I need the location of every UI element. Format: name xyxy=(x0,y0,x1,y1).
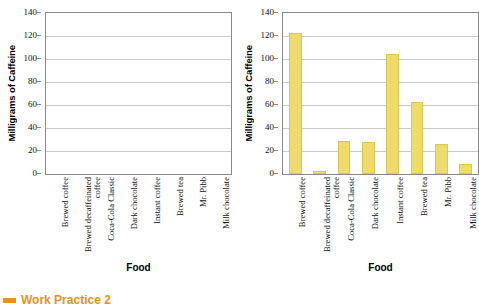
bar xyxy=(411,102,424,174)
y-tick-mark xyxy=(37,58,41,59)
y-tick-label: 140 xyxy=(261,7,275,17)
y-tick-label: 20 xyxy=(265,145,274,155)
y-tick-label: 100 xyxy=(261,53,275,63)
y-tick-mark xyxy=(274,81,278,82)
y-tick-label: 120 xyxy=(261,30,275,40)
x-tick-label: Mr. Pibb xyxy=(444,177,453,257)
chart-caffeine-bars: Milligrams of Caffeine 02040608010012014… xyxy=(237,0,477,290)
gridline xyxy=(46,59,231,60)
gridline xyxy=(46,36,231,37)
y-tick-label: 60 xyxy=(265,99,274,109)
plot-area xyxy=(45,12,232,175)
plot-area xyxy=(282,12,479,175)
x-axis-title: Food xyxy=(282,262,479,273)
y-tick-mark xyxy=(274,173,278,174)
y-tick-mark xyxy=(274,104,278,105)
x-tick-label: Brewed tea xyxy=(176,177,185,257)
y-tick-mark xyxy=(274,150,278,151)
y-tick-label: 80 xyxy=(28,76,37,86)
x-tick-label: Instant coffee xyxy=(396,177,405,257)
gridline xyxy=(46,151,231,152)
bar xyxy=(289,33,302,174)
bar xyxy=(338,141,351,174)
y-tick-mark xyxy=(37,35,41,36)
y-tick-mark xyxy=(37,127,41,128)
y-tick-label: 40 xyxy=(265,122,274,132)
x-tick-label: Brewed coffee xyxy=(61,177,70,257)
bar xyxy=(386,54,399,174)
y-tick-mark xyxy=(274,58,278,59)
gridline xyxy=(283,105,478,106)
gridline xyxy=(283,59,478,60)
y-tick-label: 140 xyxy=(24,7,38,17)
y-tick-label: 60 xyxy=(28,99,37,109)
bar xyxy=(435,144,448,174)
square-bullet-icon xyxy=(3,298,16,303)
y-tick-label: 120 xyxy=(24,30,38,40)
y-tick-mark xyxy=(37,81,41,82)
gridline xyxy=(46,82,231,83)
bar xyxy=(459,164,472,174)
y-tick-mark xyxy=(274,127,278,128)
chart-blank-template: Milligrams of Caffeine 02040608010012014… xyxy=(0,0,240,290)
x-tick-label: Dark chocolate xyxy=(130,177,139,257)
x-axis-tick-labels: Brewed coffeeBrewed decaffeinated coffee… xyxy=(45,177,232,257)
bar xyxy=(362,142,375,174)
y-tick-label: 100 xyxy=(24,53,38,63)
y-tick-label: 40 xyxy=(28,122,37,132)
x-tick-label: Brewed decaffeinated coffee xyxy=(323,177,342,257)
x-axis-tick-labels: Brewed coffeeBrewed decaffeinated coffee… xyxy=(282,177,479,257)
gridline xyxy=(283,36,478,37)
x-tick-label: Coca-Cola Classic xyxy=(107,177,116,257)
x-tick-label: Milk chocolate xyxy=(222,177,231,257)
x-tick-label: Brewed decaffeinated coffee xyxy=(84,177,103,257)
gridline xyxy=(283,128,478,129)
x-tick-label: Instant coffee xyxy=(153,177,162,257)
y-axis-tick-labels: 020406080100120140 xyxy=(0,12,41,175)
x-tick-label: Mr. Pibb xyxy=(199,177,208,257)
y-axis-tick-labels: 020406080100120140 xyxy=(237,12,278,175)
x-tick-label: Brewed coffee xyxy=(298,177,307,257)
gridline xyxy=(283,82,478,83)
y-tick-mark xyxy=(37,12,41,13)
y-tick-mark xyxy=(37,150,41,151)
y-tick-mark xyxy=(274,12,278,13)
gridline xyxy=(46,128,231,129)
y-tick-mark xyxy=(274,35,278,36)
gridline xyxy=(283,151,478,152)
footer-label: Work Practice 2 xyxy=(21,294,111,306)
x-tick-label: Dark chocolate xyxy=(371,177,380,257)
x-tick-label: Coca-Cola Classic xyxy=(347,177,356,257)
gridline xyxy=(46,105,231,106)
x-axis-title: Food xyxy=(45,262,232,273)
footer-section-heading: Work Practice 2 xyxy=(0,294,477,306)
y-tick-label: 80 xyxy=(265,76,274,86)
x-tick-label: Milk chocolate xyxy=(469,177,478,257)
bar xyxy=(313,171,326,174)
y-tick-label: 20 xyxy=(28,145,37,155)
y-tick-mark xyxy=(37,104,41,105)
y-tick-mark xyxy=(37,173,41,174)
x-tick-label: Brewed tea xyxy=(420,177,429,257)
